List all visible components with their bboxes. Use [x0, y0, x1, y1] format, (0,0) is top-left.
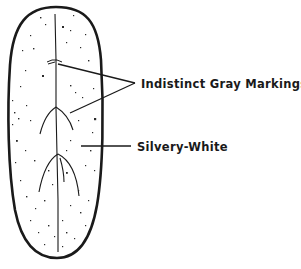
label-indistinct-gray-markings: Indistinct Gray Markings: [141, 77, 301, 91]
kernel-diagram: [0, 0, 301, 269]
label-silvery-white: Silvery-White: [137, 140, 228, 154]
